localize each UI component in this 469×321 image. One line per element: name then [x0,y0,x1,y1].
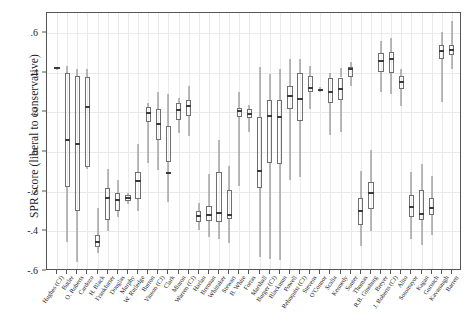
whisker-upper [411,172,412,195]
boxplot[interactable] [449,13,454,270]
whisker-upper [310,66,311,76]
whisker-lower [148,122,149,163]
boxplot[interactable] [419,13,424,270]
median-line [368,192,373,194]
boxplot[interactable] [409,13,414,270]
boxplot[interactable] [247,13,252,270]
boxplot[interactable] [216,13,221,270]
x-tick-mark [117,270,118,274]
boxplot[interactable] [186,13,191,270]
boxplot[interactable] [297,13,302,270]
whisker-lower [67,187,68,243]
whisker-lower [360,225,361,246]
boxplot[interactable] [368,13,373,270]
boxplot[interactable] [166,13,171,270]
plot-area [46,12,461,270]
whisker-lower [411,217,412,239]
x-tick-mark [350,270,351,274]
x-tick-mark [340,270,341,274]
boxplot[interactable] [54,13,59,270]
median-line [308,87,313,89]
median-line [348,68,353,70]
boxplot[interactable] [389,13,394,270]
whisker-upper [67,66,68,73]
x-tick-mark [56,270,57,274]
boxplot[interactable] [125,13,130,270]
whisker-lower [97,247,98,253]
boxplot[interactable] [267,13,272,270]
boxplot[interactable] [227,13,232,270]
boxplot[interactable] [328,13,333,270]
boxplot[interactable] [338,13,343,270]
boxplot[interactable] [156,13,161,270]
boxplot[interactable] [237,13,242,270]
boxplot[interactable] [95,13,100,270]
x-tick-mark [188,270,189,274]
boxplot[interactable] [176,13,181,270]
median-line [196,215,201,217]
boxplot[interactable] [308,13,313,270]
median-line [399,81,404,83]
whisker-upper [168,94,169,126]
whisker-upper [370,150,371,182]
median-line [54,67,59,69]
whisker-lower [259,188,260,257]
boxplot[interactable] [85,13,90,270]
boxplot[interactable] [65,13,70,270]
median-line [146,112,151,114]
boxplot[interactable] [439,13,444,270]
x-tick-mark [137,270,138,274]
boxplot[interactable] [358,13,363,270]
x-tick-mark [208,270,209,274]
median-line [237,110,242,112]
boxplot[interactable] [196,13,201,270]
boxplot[interactable] [378,13,383,270]
box-iqr [166,126,171,162]
whisker-upper [107,169,108,187]
whisker-lower [289,109,290,179]
boxplot[interactable] [277,13,282,270]
x-tick-mark [167,270,168,274]
whisker-upper [269,74,270,101]
boxplot[interactable] [399,13,404,270]
whisker-lower [421,220,422,245]
box-iqr [196,211,201,222]
median-line [389,58,394,60]
median-line [156,123,161,125]
whisker-upper [77,69,78,76]
box-iqr [257,117,262,187]
whisker-lower [127,201,128,204]
median-line [135,180,140,182]
x-tick-mark [238,270,239,274]
boxplot[interactable] [287,13,292,270]
y-tick-label: -.2 [8,185,38,196]
boxplot[interactable] [206,13,211,270]
box-iqr [176,103,181,120]
boxplot[interactable] [429,13,434,270]
x-tick-mark [360,270,361,274]
box-iqr [146,107,151,122]
whisker-lower [229,219,230,243]
median-line [378,60,383,62]
boxplot[interactable] [348,13,353,270]
boxplot[interactable] [146,13,151,270]
whisker-upper [219,140,220,172]
whisker-lower [269,163,270,259]
boxplot[interactable] [257,13,262,270]
median-line [216,212,221,214]
x-tick-mark [147,270,148,274]
whisker-upper [431,176,432,198]
box-iqr [378,53,383,71]
median-line [95,241,100,243]
whisker-lower [320,91,321,93]
boxplot[interactable] [115,13,120,270]
median-line [105,197,110,199]
boxplot[interactable] [75,13,80,270]
boxplot[interactable] [105,13,110,270]
boxplot[interactable] [135,13,140,270]
boxplot[interactable] [318,13,323,270]
median-line [186,105,191,107]
whisker-lower [310,92,311,109]
median-line [267,115,272,117]
whisker-lower [77,211,78,262]
